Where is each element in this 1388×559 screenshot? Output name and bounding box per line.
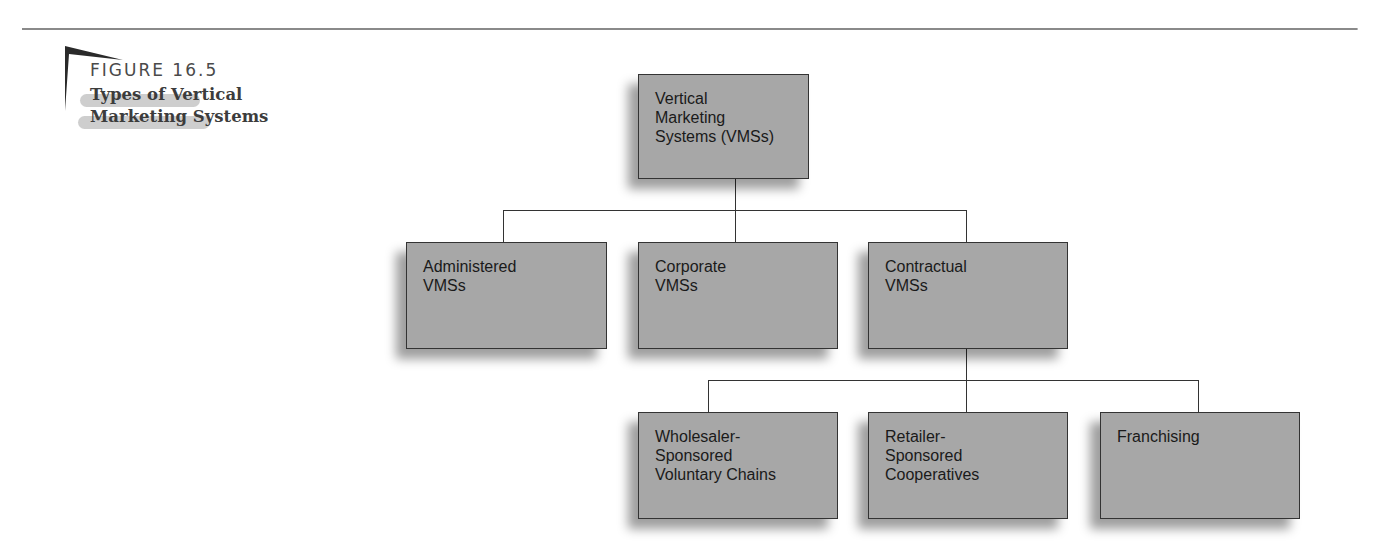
connector	[708, 380, 709, 412]
figure-title: Types of Vertical Marketing Systems	[90, 84, 268, 128]
node-administered-vms: Administered VMSs	[406, 242, 607, 349]
connector	[708, 380, 1199, 381]
connector	[503, 210, 504, 242]
connector	[735, 210, 736, 242]
node-franchising: Franchising	[1100, 412, 1300, 519]
node-wholesaler-sponsored-chains: Wholesaler- Sponsored Voluntary Chains	[638, 412, 838, 519]
connector	[966, 348, 967, 381]
figure-number: FIGURE 16.5	[90, 60, 218, 80]
node-corporate-vms: Corporate VMSs	[638, 242, 838, 349]
connector	[735, 178, 736, 211]
connector	[966, 380, 967, 412]
node-vms-root: Vertical Marketing Systems (VMSs)	[638, 74, 809, 179]
node-contractual-vms: Contractual VMSs	[868, 242, 1068, 349]
node-retailer-sponsored-cooperatives: Retailer- Sponsored Cooperatives	[868, 412, 1068, 519]
top-rule	[22, 28, 1358, 30]
connector	[1198, 380, 1199, 412]
connector	[966, 210, 967, 242]
